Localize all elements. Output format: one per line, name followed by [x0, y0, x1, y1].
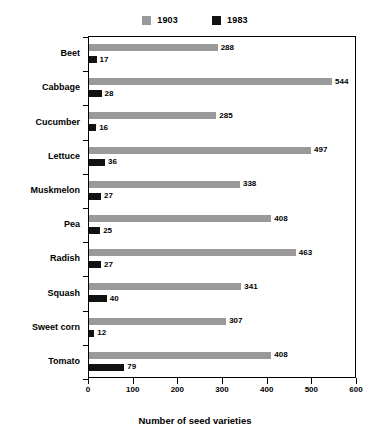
x-axis-tick-label: 200	[171, 386, 184, 394]
y-axis-label-muskmelon: Muskmelon	[30, 186, 80, 195]
bar-group: 28817	[89, 44, 355, 64]
chart-figure: 1903 1983 BeetCabbageCucumberLettuceMusk…	[0, 0, 390, 446]
y-axis-label-sweet-corn: Sweet corn	[32, 323, 80, 332]
legend-label-1983: 1983	[227, 16, 248, 25]
y-axis-tick	[83, 105, 89, 106]
bar-value-label: 408	[274, 351, 287, 359]
bar-value-label: 40	[110, 295, 119, 303]
bar-value-label: 497	[314, 146, 327, 154]
bar-group: 28516	[89, 112, 355, 132]
legend-swatch-1903	[142, 16, 151, 25]
x-axis-tick-labels: 0100200300400500600	[0, 386, 390, 400]
bar-value-label: 25	[103, 227, 112, 235]
bar-group: 30712	[89, 318, 355, 338]
bar-value-label: 544	[335, 78, 348, 86]
bar-value-label: 341	[244, 283, 257, 291]
bar-1903: 307	[89, 318, 226, 325]
y-axis-label-tomato: Tomato	[48, 357, 80, 366]
y-axis-label-beet: Beet	[60, 49, 80, 58]
legend-item-1983: 1983	[212, 16, 248, 25]
y-axis-tick	[83, 242, 89, 243]
x-axis-tick-label: 400	[260, 386, 273, 394]
bar-group: 33827	[89, 181, 355, 201]
y-axis-tick	[83, 345, 89, 346]
bar-1903: 497	[89, 147, 311, 154]
x-axis-tick	[88, 378, 89, 384]
bar-1983: 17	[89, 56, 97, 63]
bar-group: 49736	[89, 147, 355, 167]
bar-value-label: 17	[100, 56, 109, 64]
bar-group: 46327	[89, 249, 355, 269]
bar-1903: 408	[89, 215, 271, 222]
bar-value-label: 288	[221, 44, 234, 52]
bar-group: 40825	[89, 215, 355, 235]
x-axis-tick	[356, 378, 357, 384]
x-axis-tick-label: 300	[215, 386, 228, 394]
bar-1903: 544	[89, 78, 332, 85]
y-axis-label-cabbage: Cabbage	[42, 83, 80, 92]
bar-1983: 40	[89, 295, 107, 302]
x-axis-title: Number of seed varieties	[0, 416, 390, 426]
x-axis-tick	[133, 378, 134, 384]
bar-group: 34140	[89, 283, 355, 303]
bar-group: 40879	[89, 352, 355, 372]
y-axis-tick	[83, 311, 89, 312]
y-axis-tick	[83, 208, 89, 209]
bar-value-label: 408	[274, 215, 287, 223]
bar-1983: 79	[89, 364, 124, 371]
bar-value-label: 79	[127, 363, 136, 371]
y-axis-tick	[83, 140, 89, 141]
bar-1903: 408	[89, 352, 271, 359]
legend-item-1903: 1903	[142, 16, 178, 25]
bar-value-label: 307	[229, 317, 242, 325]
bar-value-label: 338	[243, 180, 256, 188]
bar-1903: 463	[89, 249, 296, 256]
x-axis-tick	[311, 378, 312, 384]
y-axis-tick	[83, 71, 89, 72]
x-axis-tick-label: 100	[126, 386, 139, 394]
bar-1983: 36	[89, 159, 105, 166]
y-axis-label-squash: Squash	[47, 289, 80, 298]
legend-swatch-1983	[212, 16, 221, 25]
bar-value-label: 16	[99, 124, 108, 132]
x-axis-tick-label: 0	[86, 386, 90, 394]
y-axis-label-radish: Radish	[50, 254, 80, 263]
bar-group: 54428	[89, 78, 355, 98]
plot-area: 2881754428285164973633827408254632734140…	[88, 36, 356, 378]
x-axis-tick-label: 500	[305, 386, 318, 394]
y-axis-tick	[83, 276, 89, 277]
bar-value-label: 12	[97, 329, 106, 337]
bar-value-label: 28	[105, 90, 114, 98]
legend-label-1903: 1903	[157, 16, 178, 25]
bar-value-label: 36	[108, 158, 117, 166]
bar-value-label: 285	[219, 112, 232, 120]
bar-1983: 27	[89, 261, 101, 268]
bar-1983: 25	[89, 227, 100, 234]
bar-1903: 341	[89, 283, 241, 290]
chart-legend: 1903 1983	[0, 12, 390, 28]
bar-1903: 285	[89, 112, 216, 119]
bar-value-label: 27	[104, 261, 113, 269]
y-axis-label-lettuce: Lettuce	[48, 152, 80, 161]
bar-1983: 16	[89, 124, 96, 131]
x-axis-tick-label: 600	[349, 386, 362, 394]
bar-1903: 288	[89, 44, 218, 51]
bar-value-label: 27	[104, 192, 113, 200]
y-axis-label-pea: Pea	[64, 220, 80, 229]
bar-1983: 28	[89, 90, 102, 97]
y-axis-label-cucumber: Cucumber	[35, 118, 80, 127]
bar-1983: 12	[89, 330, 94, 337]
x-axis-tick	[222, 378, 223, 384]
x-axis-tick	[267, 378, 268, 384]
bar-value-label: 463	[299, 249, 312, 257]
y-axis-category-labels: BeetCabbageCucumberLettuceMuskmelonPeaRa…	[0, 36, 86, 378]
bar-1903: 338	[89, 181, 240, 188]
y-axis-tick	[83, 37, 89, 38]
bar-1983: 27	[89, 193, 101, 200]
x-axis-tick	[177, 378, 178, 384]
y-axis-tick	[83, 174, 89, 175]
